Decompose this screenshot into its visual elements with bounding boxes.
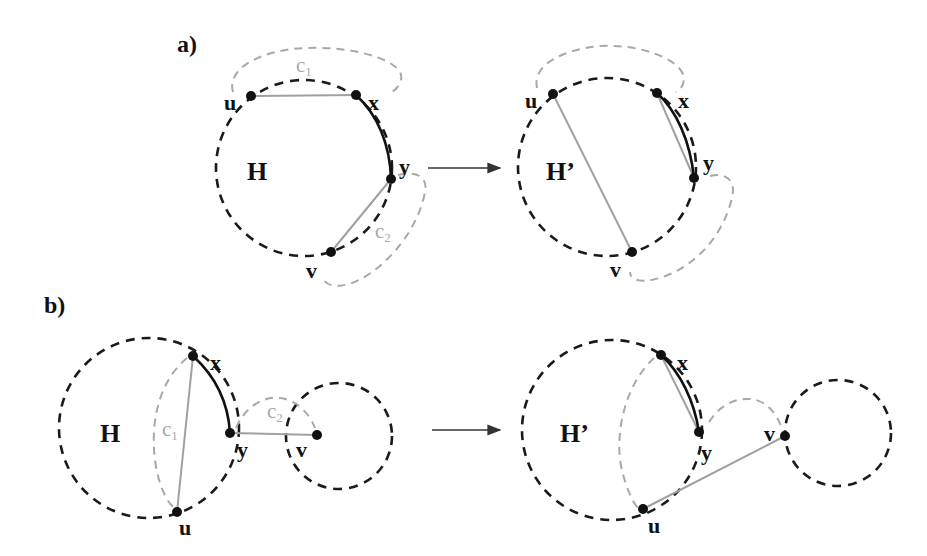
cycle-c2-label: c2: [375, 219, 391, 245]
node-v: [326, 247, 336, 257]
node-u-label: u: [648, 513, 660, 538]
panel-a-before: a) u x y v H c1 c2: [177, 31, 426, 286]
cycle-c2-prime-curve: [630, 175, 733, 281]
panel-a-after: u x y v H’: [518, 46, 733, 282]
edge-u-v: [643, 436, 785, 509]
edge-y-v: [230, 433, 317, 435]
panel-b-after: x y u v H’: [522, 340, 891, 538]
cycle-c1-prime-curve: [536, 46, 683, 92]
node-y-label: y: [399, 154, 410, 179]
cycle-c1-label: c1: [162, 417, 178, 443]
node-u-label: u: [224, 90, 236, 115]
node-u-label: u: [525, 88, 537, 113]
node-x-label: x: [210, 350, 221, 375]
node-x: [656, 350, 666, 360]
node-x: [188, 351, 198, 361]
diagram-canvas: a) u x y v H c1 c2: [0, 0, 927, 556]
node-u: [638, 504, 648, 514]
node-y-label: y: [237, 437, 248, 462]
cycle-c1-prime-curve: [619, 358, 654, 508]
graph-h-prime-label: H’: [546, 157, 575, 186]
graph-h-label: H: [100, 419, 120, 448]
node-x: [351, 90, 361, 100]
cycle-c1-label: c1: [296, 53, 312, 79]
node-x-label: x: [368, 90, 379, 115]
cycle-c1-curve: [232, 48, 401, 92]
edge-u-x: [251, 95, 356, 96]
node-u-label: u: [179, 515, 191, 540]
panel-b-label: b): [44, 292, 65, 318]
node-v-label: v: [306, 258, 317, 283]
node-v: [780, 431, 790, 441]
node-y-label: y: [701, 440, 712, 465]
cycle-c2-label: c2: [267, 399, 283, 425]
neighbor-component-circle: [785, 380, 891, 486]
panel-a-label: a): [177, 31, 197, 57]
node-v-label: v: [764, 421, 775, 446]
node-x-label: x: [678, 88, 689, 113]
node-y-label: y: [703, 150, 714, 175]
panel-b-before: b) x y u v H c1 c2: [44, 292, 392, 540]
node-v-label: v: [296, 437, 307, 462]
node-y: [694, 427, 704, 437]
node-y: [386, 174, 396, 184]
diagram-svg: a) u x y v H c1 c2: [0, 0, 927, 556]
node-u: [548, 89, 558, 99]
node-x-label: x: [677, 350, 688, 375]
neighbor-component-circle: [286, 383, 392, 489]
node-y: [225, 428, 235, 438]
node-v-label: v: [610, 257, 621, 282]
graph-h-label: H: [247, 157, 267, 186]
node-v: [312, 430, 322, 440]
edge-x-u: [177, 356, 193, 512]
node-x: [652, 88, 662, 98]
node-u: [246, 91, 256, 101]
node-y: [689, 173, 699, 183]
node-v: [627, 247, 637, 257]
graph-h-prime-label: H’: [560, 419, 589, 448]
